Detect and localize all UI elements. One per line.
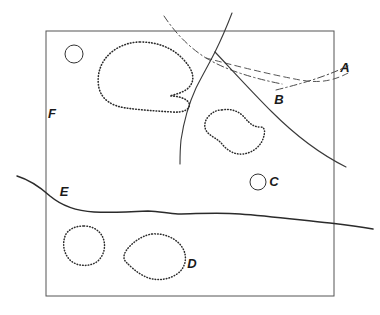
outline-large-upper bbox=[98, 42, 193, 112]
solid-line-main bbox=[215, 13, 232, 52]
outline-lower-d bbox=[124, 234, 186, 280]
geological-sketch-map: A B C D E F bbox=[0, 0, 380, 315]
outline-lower-left bbox=[64, 226, 105, 265]
map-label-d: D bbox=[187, 256, 197, 271]
solid-line-branch-right bbox=[215, 52, 346, 167]
solid-wavy-line-e bbox=[17, 176, 373, 229]
dashed-line-a bbox=[206, 58, 350, 81]
map-label-b: B bbox=[274, 92, 283, 107]
dash-dot-line-upper bbox=[164, 16, 282, 84]
outline-middle bbox=[205, 109, 265, 154]
circle-upper-left bbox=[65, 45, 83, 63]
circle-c bbox=[250, 174, 266, 190]
map-label-a: A bbox=[339, 60, 349, 75]
map-label-e: E bbox=[60, 184, 69, 199]
map-label-c: C bbox=[269, 174, 279, 189]
map-label-f: F bbox=[48, 106, 57, 121]
solid-line-branch-left bbox=[180, 52, 215, 164]
